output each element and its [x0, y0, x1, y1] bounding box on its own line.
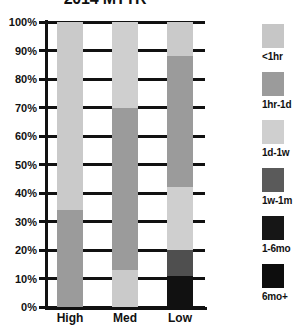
- legend-item-3[interactable]: 1w-1m: [262, 168, 297, 216]
- y-axis-tick: [39, 249, 47, 252]
- bar-segment: [112, 22, 138, 108]
- x-axis-label-low: Low: [150, 311, 210, 325]
- legend-swatch: [262, 120, 284, 144]
- chart-title: 2014 MTTR: [0, 0, 210, 8]
- legend-label: 1d-1w: [262, 147, 297, 158]
- bar-segment: [57, 22, 83, 210]
- legend-swatch: [262, 168, 284, 192]
- y-axis-tick-label: 60%: [15, 130, 37, 142]
- y-axis-tick: [39, 163, 47, 166]
- y-axis-tick: [39, 78, 47, 81]
- y-axis-tick-label: 20%: [15, 244, 37, 256]
- bar-segment: [167, 276, 193, 307]
- legend-label: 1w-1m: [262, 195, 297, 206]
- y-axis-tick: [39, 220, 47, 223]
- legend-item-1[interactable]: 1hr-1d: [262, 72, 297, 120]
- y-axis-tick-label: 100%: [9, 16, 37, 28]
- legend-swatch: [262, 72, 284, 96]
- y-axis-tick: [39, 277, 47, 280]
- y-axis-tick-label: 70%: [15, 102, 37, 114]
- bar-segment: [167, 22, 193, 56]
- legend-swatch: [262, 264, 284, 288]
- legend-item-0[interactable]: <1hr: [262, 24, 297, 72]
- bar-segment: [167, 56, 193, 187]
- bar-segment: [57, 210, 83, 307]
- y-axis-tick: [39, 49, 47, 52]
- y-axis-tick: [39, 306, 47, 309]
- x-axis-label-high: High: [40, 311, 100, 325]
- bar-low: [167, 22, 193, 307]
- y-axis-tick-label: 90%: [15, 45, 37, 57]
- legend-item-4[interactable]: 1-6mo: [262, 216, 297, 264]
- bar-segment: [167, 187, 193, 250]
- y-axis-tick-label: 80%: [15, 73, 37, 85]
- x-axis-label-med: Med: [95, 311, 155, 325]
- y-axis-tick: [39, 135, 47, 138]
- chart-container: 2014 MTTR 0%10%20%30%40%50%60%70%80%90%1…: [0, 0, 297, 334]
- legend-label: 1hr-1d: [262, 99, 297, 110]
- bar-segment: [167, 250, 193, 276]
- legend-label: 6mo+: [262, 291, 297, 302]
- y-axis-tick: [39, 106, 47, 109]
- bar-segment: [112, 270, 138, 307]
- legend-label: 1-6mo: [262, 243, 297, 254]
- y-axis-tick: [39, 192, 47, 195]
- y-axis-tick-label: 40%: [15, 187, 37, 199]
- plot-area: 0%10%20%30%40%50%60%70%80%90%100%: [45, 22, 205, 307]
- y-axis-tick-label: 50%: [15, 159, 37, 171]
- bar-segment: [112, 108, 138, 270]
- bar-med: [112, 22, 138, 307]
- legend-swatch: [262, 216, 284, 240]
- legend-item-5[interactable]: 6mo+: [262, 264, 297, 312]
- chart-legend: <1hr1hr-1d1d-1w1w-1m1-6mo6mo+: [262, 24, 297, 312]
- y-axis-tick-label: 30%: [15, 216, 37, 228]
- y-axis-tick: [39, 21, 47, 24]
- legend-swatch: [262, 24, 284, 48]
- legend-label: <1hr: [262, 51, 297, 62]
- bar-high: [57, 22, 83, 307]
- y-axis-tick-label: 0%: [21, 301, 37, 313]
- y-axis-tick-label: 10%: [15, 273, 37, 285]
- legend-item-2[interactable]: 1d-1w: [262, 120, 297, 168]
